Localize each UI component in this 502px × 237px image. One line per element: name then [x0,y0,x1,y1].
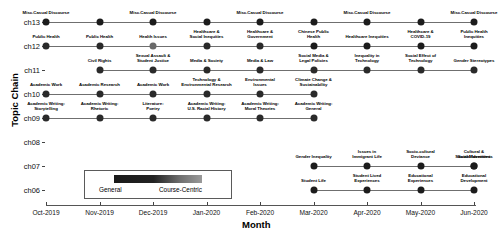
chain-node[interactable] [150,43,157,50]
chain-node[interactable] [203,19,210,26]
chain-node-label: Misc.Casual Discourse [15,11,77,16]
chain-line-ch10 [46,94,314,95]
colorbar-low-label: General [99,186,122,193]
chain-node[interactable] [310,67,317,74]
x-tick-mark [100,202,101,205]
chain-node[interactable] [310,115,317,122]
chain-node[interactable] [310,91,317,98]
chain-node[interactable] [96,19,103,26]
chain-node[interactable] [257,115,264,122]
chain-node[interactable] [257,67,264,74]
chain-node-label: Misc.Casual Discourse [122,11,184,16]
chain-node[interactable] [43,19,50,26]
chain-node[interactable] [364,19,371,26]
x-tick-mark [474,202,475,205]
chain-node[interactable] [310,163,317,170]
y-tick-ch09: ch09 [18,114,40,123]
chain-node[interactable] [43,115,50,122]
chain-node[interactable] [257,43,264,50]
chain-node[interactable] [417,67,424,74]
chain-node-label: Academic Writing: General [283,102,345,112]
colorbar-legend: General Course-Centric [84,170,232,199]
chain-node[interactable] [203,115,210,122]
chain-node[interactable] [471,43,478,50]
x-tick-mark [314,202,315,205]
chain-node-label: Social Movements [443,155,502,160]
x-tick-mark [367,202,368,205]
chain-node-label: Climate Change & Sustainability [283,78,345,88]
chain-node[interactable] [364,67,371,74]
chain-line-ch07 [314,166,475,167]
chain-node[interactable] [203,67,210,74]
y-tick-mark [42,70,45,71]
chain-node-label: Misc.Casual Discourse [443,11,502,16]
chain-node[interactable] [150,115,157,122]
x-tick-Apr-2020: Apr-2020 [353,209,380,216]
y-tick-ch10: ch10 [18,90,40,99]
chain-node[interactable] [96,67,103,74]
chain-line-ch09 [46,118,314,119]
chain-line-ch06 [314,190,475,191]
y-tick-ch12: ch12 [18,42,40,51]
y-tick-ch08: ch08 [18,138,40,147]
chain-node[interactable] [203,43,210,50]
chain-node[interactable] [417,187,424,194]
x-tick-mark [207,202,208,205]
chain-node[interactable] [150,91,157,98]
chain-node[interactable] [310,187,317,194]
chain-node[interactable] [417,163,424,170]
x-tick-Dec-2019: Dec-2019 [139,209,168,216]
chain-node[interactable] [203,91,210,98]
x-tick-Nov-2019: Nov-2019 [85,209,114,216]
chain-node[interactable] [96,115,103,122]
chain-node[interactable] [96,91,103,98]
chain-node[interactable] [417,43,424,50]
chain-node[interactable] [310,19,317,26]
colorbar-high-label: Course-Centric [159,186,202,193]
y-tick-mark [42,190,45,191]
y-tick-ch13: ch13 [18,18,40,27]
chain-node[interactable] [43,43,50,50]
chain-node[interactable] [471,187,478,194]
x-tick-Mar-2020: Mar-2020 [299,209,327,216]
chain-node[interactable] [364,187,371,194]
x-tick-Feb-2020: Feb-2020 [246,209,274,216]
chain-node[interactable] [471,67,478,74]
x-tick-Jan-2020: Jan-2020 [193,209,221,216]
y-tick-ch11: ch11 [18,66,40,75]
chain-node[interactable] [364,43,371,50]
chain-node-label: Gender Stereotypes [443,59,502,64]
chain-node[interactable] [96,43,103,50]
chain-node[interactable] [150,19,157,26]
chain-node[interactable] [417,19,424,26]
x-tick-Oct-2019: Oct-2019 [32,209,59,216]
x-tick-mark [153,202,154,205]
x-tick-May-2020: May-2020 [406,209,435,216]
chain-node-label: Misc.Casual Discourse [336,11,398,16]
chain-node-label: Educational Development [443,174,502,184]
y-tick-mark [42,142,45,143]
y-tick-ch07: ch07 [18,162,40,171]
x-tick-Jun-2020: Jun-2020 [460,209,488,216]
x-axis-label: Month [242,219,271,230]
y-tick-ch06: ch06 [18,186,40,195]
chain-node[interactable] [471,163,478,170]
x-axis-line [46,205,476,206]
chain-node[interactable] [310,43,317,50]
chain-node-label: Misc.Casual Discourse [229,11,291,16]
chain-node-label: Public Health Inequities [443,30,502,40]
chain-node[interactable] [150,67,157,74]
y-tick-mark [42,166,45,167]
chain-node[interactable] [257,91,264,98]
chain-node[interactable] [364,163,371,170]
colorbar-gradient [114,175,202,183]
x-tick-mark [46,202,47,205]
chain-node[interactable] [471,19,478,26]
x-tick-mark [421,202,422,205]
x-tick-mark [260,202,261,205]
chain-node[interactable] [257,19,264,26]
chain-node[interactable] [43,91,50,98]
